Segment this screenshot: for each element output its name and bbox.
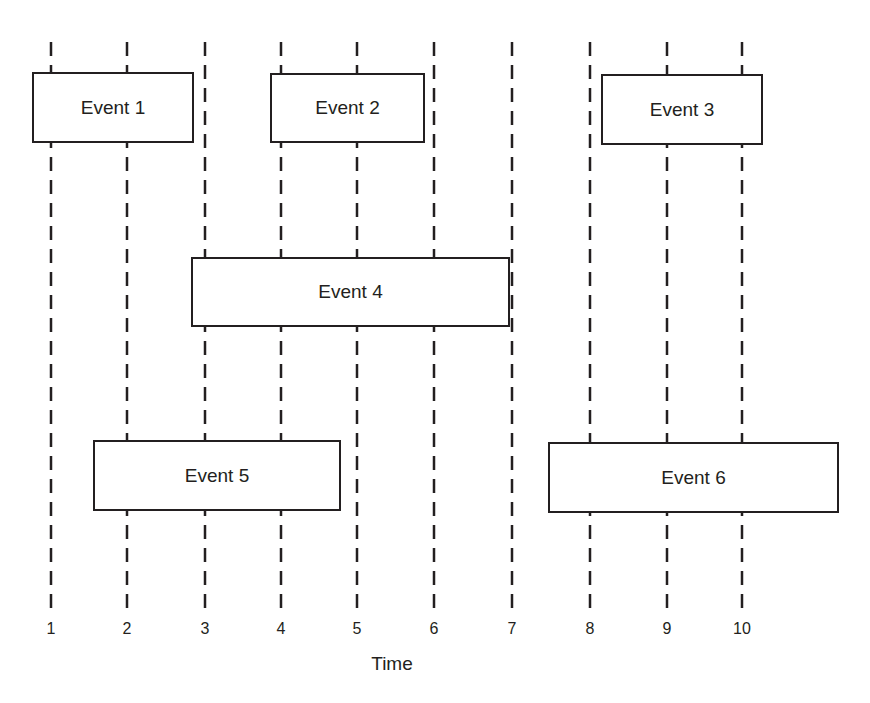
time-tick-label: 5 [353,620,362,637]
time-tick-label: 2 [123,620,132,637]
time-axis-ticks: 12345678910 [47,620,751,637]
time-tick-label: 4 [277,620,286,637]
event-label: Event 2 [315,97,379,118]
event-box-3: Event 3 [602,75,762,144]
event-box-6: Event 6 [549,443,838,512]
time-tick-label: 6 [430,620,439,637]
time-axis-title: Time [371,653,413,674]
time-tick-label: 8 [586,620,595,637]
time-tick-label: 10 [733,620,751,637]
event-box-1: Event 1 [33,73,193,142]
event-timeline-diagram: Event 1Event 2Event 3Event 4Event 5Event… [0,0,870,703]
time-tick-label: 9 [663,620,672,637]
event-boxes: Event 1Event 2Event 3Event 4Event 5Event… [33,73,838,512]
event-label: Event 6 [661,467,725,488]
event-label: Event 4 [318,281,383,302]
time-tick-label: 1 [47,620,56,637]
time-tick-label: 7 [508,620,517,637]
event-label: Event 5 [185,465,249,486]
event-label: Event 3 [650,99,714,120]
event-label: Event 1 [81,97,145,118]
time-tick-label: 3 [201,620,210,637]
event-box-4: Event 4 [192,258,509,326]
event-box-2: Event 2 [271,74,424,142]
event-box-5: Event 5 [94,441,340,510]
